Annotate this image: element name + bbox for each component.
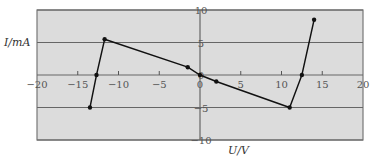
data-point [312,18,316,22]
x-tick-label: 5 [238,79,244,90]
data-point [186,65,190,69]
data-point [300,73,304,77]
data-point [287,105,291,109]
x-tick-label: 15 [316,79,329,90]
x-tick-label: 10 [275,79,288,90]
x-axis-title: U/V [228,144,250,157]
iv-chart: −20−15−10−505101520−10−50510 I/mA U/V [0,0,373,159]
x-tick-label: −15 [67,79,88,90]
y-tick-label: −10 [190,135,211,146]
y-tick-label: 5 [198,38,204,49]
x-tick-label: −5 [152,79,167,90]
x-tick-label: −10 [108,79,129,90]
y-tick-label: 10 [195,5,208,16]
data-point [94,73,98,77]
data-point [88,105,92,109]
data-point [198,73,202,77]
y-tick-label: −5 [194,103,209,114]
x-tick-label: −20 [26,79,47,90]
data-point [214,79,218,83]
y-axis-title: I/mA [3,36,30,49]
x-tick-label: 20 [357,79,370,90]
data-point [102,37,106,41]
